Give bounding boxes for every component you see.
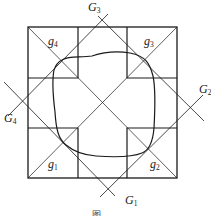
label-G1: G1 bbox=[125, 193, 138, 208]
label-g4: g4 bbox=[48, 34, 58, 49]
label-g1: g1 bbox=[48, 157, 58, 172]
diagram-canvas: G3 G2 G4 G1 g4 g3 g1 g2 图 bbox=[0, 0, 211, 216]
line-G2 bbox=[100, 95, 203, 197]
label-G4: G4 bbox=[4, 111, 17, 126]
line-G4 bbox=[8, 14, 108, 116]
label-g3: g3 bbox=[144, 34, 154, 49]
label-G2: G2 bbox=[199, 82, 211, 97]
line-G1 bbox=[4, 82, 115, 196]
figure-caption: 图 bbox=[92, 210, 101, 216]
label-G3: G3 bbox=[88, 0, 101, 15]
G-lines bbox=[4, 14, 204, 197]
